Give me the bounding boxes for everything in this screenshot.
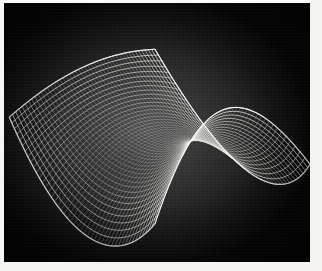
paper-margin-left [0, 0, 4, 271]
paper-margin-bottom [0, 262, 322, 271]
paper-margin-top [0, 0, 322, 3]
photographic-plate: Wireframe mesh saddle surface A woven wi… [0, 0, 322, 271]
paper-margin-right [310, 0, 322, 271]
specular-hotspot [4, 3, 310, 262]
mesh-surface-figure [4, 3, 310, 262]
photo-field [4, 3, 310, 262]
